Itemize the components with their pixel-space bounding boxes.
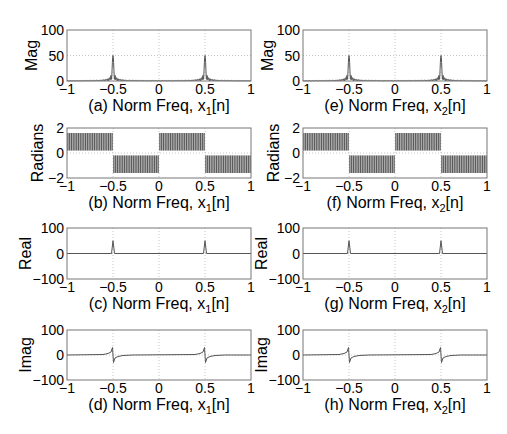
y-tick-label: 0 xyxy=(292,73,300,89)
x-tick-label: 0 xyxy=(391,380,399,396)
x-axis-caption: (b) Norm Freq, x1[n] xyxy=(88,194,229,214)
x-axis-caption: (c) Norm Freq, x1[n] xyxy=(89,295,229,315)
x-tick-label: 0.5 xyxy=(195,380,215,396)
y-tick-label: 0 xyxy=(56,246,64,262)
y-tick-label: 0 xyxy=(56,145,64,161)
x-tick-label: 0.5 xyxy=(431,81,451,97)
y-tick-label: −100 xyxy=(268,372,300,388)
x-tick-label: 0.5 xyxy=(431,279,451,295)
x-axis-caption: (d) Norm Freq, x1[n] xyxy=(88,396,229,416)
y-tick-label: −2 xyxy=(284,170,300,186)
y-tick-label: 50 xyxy=(284,48,300,64)
x-axis-caption: (a) Norm Freq, x1[n] xyxy=(88,97,229,117)
y-tick-label: −100 xyxy=(32,271,64,287)
x-tick-label: −0.5 xyxy=(335,380,363,396)
y-axis-label: Imag xyxy=(17,337,34,373)
data-series xyxy=(303,241,487,254)
y-tick-label: −100 xyxy=(268,271,300,287)
y-tick-label: 100 xyxy=(277,220,301,236)
x-tick-label: −0.5 xyxy=(99,279,127,295)
x-tick-label: −0.5 xyxy=(335,178,363,194)
y-tick-label: 0 xyxy=(292,347,300,363)
y-tick-label: 100 xyxy=(277,22,301,38)
y-tick-label: 0 xyxy=(292,145,300,161)
x-tick-label: −0.5 xyxy=(99,81,127,97)
subplot-c: −1−0.500.51−1000100Real(c) Norm Freq, x1… xyxy=(17,220,255,315)
y-tick-label: 0 xyxy=(56,73,64,89)
subplot-e: −1−0.500.51050100Mag(e) Norm Freq, x2[n] xyxy=(259,22,491,117)
x-tick-label: 1 xyxy=(247,380,255,396)
subplot-g: −1−0.500.51−1000100Real(g) Norm Freq, x2… xyxy=(253,220,491,315)
x-tick-label: 0 xyxy=(155,81,163,97)
x-tick-label: 1 xyxy=(483,279,491,295)
x-axis-caption: (f) Norm Freq, x2[n] xyxy=(327,194,464,214)
x-tick-label: −0.5 xyxy=(335,81,363,97)
x-axis-caption: (h) Norm Freq, x2[n] xyxy=(324,396,465,416)
subplot-b: −1−0.500.51−202Radians(b) Norm Freq, x1[… xyxy=(29,120,255,214)
y-axis-label: Real xyxy=(17,237,34,270)
y-axis-label: Radians xyxy=(29,124,46,183)
x-tick-label: 0 xyxy=(155,178,163,194)
y-axis-label: Imag xyxy=(253,337,270,373)
subplot-a: −1−0.500.51050100Mag(a) Norm Freq, x1[n] xyxy=(23,22,255,117)
y-tick-label: 0 xyxy=(56,347,64,363)
x-tick-label: 1 xyxy=(483,81,491,97)
x-tick-label: 0.5 xyxy=(195,279,215,295)
x-tick-label: 0.5 xyxy=(431,380,451,396)
y-axis-label: Mag xyxy=(259,40,276,71)
y-tick-label: 50 xyxy=(48,48,64,64)
y-tick-label: −100 xyxy=(32,372,64,388)
x-tick-label: 0.5 xyxy=(431,178,451,194)
x-tick-label: 0 xyxy=(391,178,399,194)
x-tick-label: 0 xyxy=(155,380,163,396)
y-tick-label: 2 xyxy=(292,120,300,136)
x-tick-label: 0 xyxy=(155,279,163,295)
y-axis-label: Real xyxy=(253,237,270,270)
y-tick-label: 2 xyxy=(56,120,64,136)
x-tick-label: 0 xyxy=(391,279,399,295)
y-tick-label: 100 xyxy=(41,322,65,338)
data-series xyxy=(303,56,487,82)
y-axis-label: Radians xyxy=(265,124,282,183)
y-tick-label: 0 xyxy=(292,246,300,262)
y-tick-label: 100 xyxy=(41,22,65,38)
x-tick-label: −0.5 xyxy=(99,380,127,396)
x-axis-caption: (e) Norm Freq, x2[n] xyxy=(324,97,465,117)
y-axis-label: Mag xyxy=(23,40,40,71)
x-tick-label: 1 xyxy=(247,178,255,194)
x-tick-label: −0.5 xyxy=(335,279,363,295)
x-tick-label: 0 xyxy=(391,81,399,97)
x-tick-label: 1 xyxy=(247,81,255,97)
grid-lines xyxy=(303,30,487,81)
x-tick-label: −0.5 xyxy=(99,178,127,194)
data-series xyxy=(67,56,251,82)
x-tick-label: 0.5 xyxy=(195,81,215,97)
data-series xyxy=(67,241,251,254)
subplot-h: −1−0.500.51−1000100Imag(h) Norm Freq, x2… xyxy=(253,322,491,416)
x-tick-label: 1 xyxy=(247,279,255,295)
subplot-d: −1−0.500.51−1000100Imag(d) Norm Freq, x1… xyxy=(17,322,255,416)
grid-lines xyxy=(67,30,251,81)
subplot-f: −1−0.500.51−202Radians(f) Norm Freq, x2[… xyxy=(265,120,491,214)
x-axis-caption: (g) Norm Freq, x2[n] xyxy=(324,295,465,315)
figure-canvas: −1−0.500.51050100Mag(a) Norm Freq, x1[n]… xyxy=(0,0,507,434)
y-tick-label: 100 xyxy=(277,322,301,338)
x-tick-label: 0.5 xyxy=(195,178,215,194)
x-tick-label: 1 xyxy=(483,178,491,194)
y-tick-label: −2 xyxy=(48,170,64,186)
y-tick-label: 100 xyxy=(41,220,65,236)
x-tick-label: 1 xyxy=(483,380,491,396)
